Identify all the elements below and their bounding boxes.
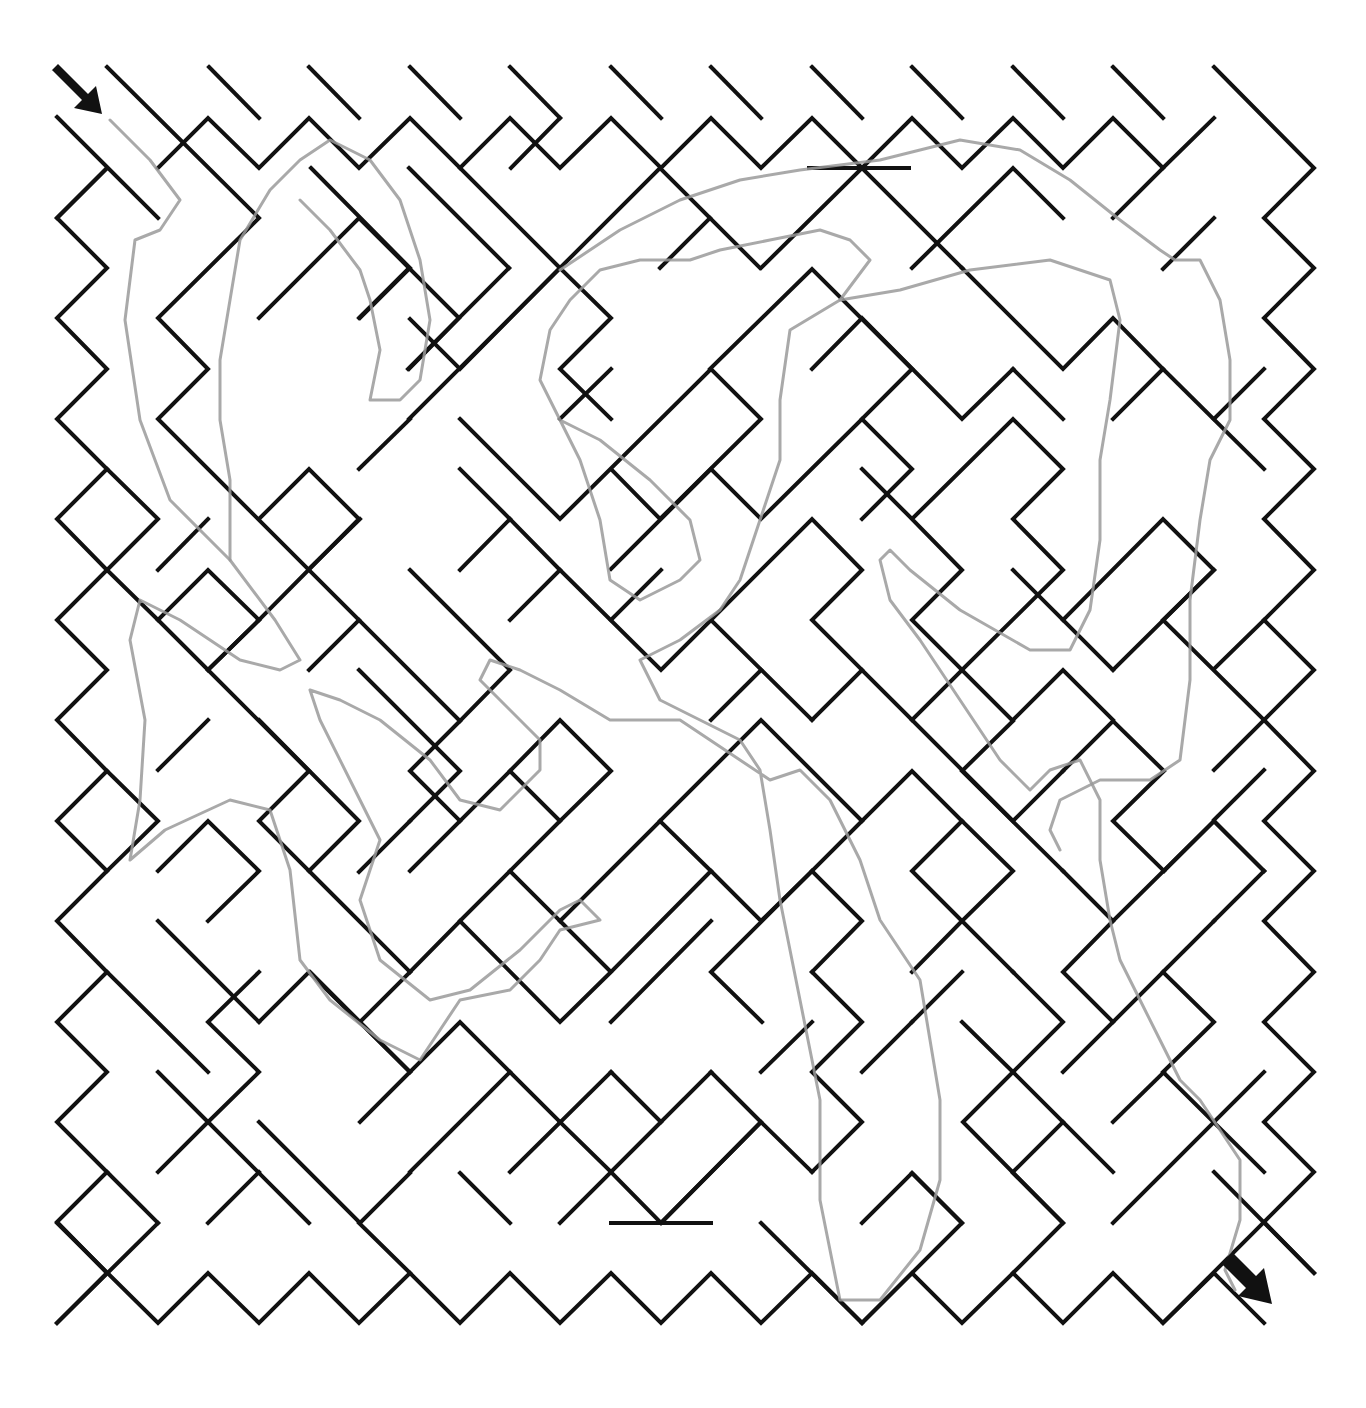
maze-wall <box>1013 1122 1063 1172</box>
maze-wall <box>962 821 1013 972</box>
maze-wall <box>410 1022 510 1072</box>
maze-wall <box>311 168 410 318</box>
maze-wall <box>862 771 962 972</box>
maze-wall <box>259 972 410 1072</box>
maze-wall <box>309 67 359 118</box>
maze-board <box>0 0 1366 1408</box>
maze-wall <box>359 1223 410 1273</box>
maze-wall <box>460 469 510 519</box>
maze-wall <box>1113 168 1163 218</box>
maze-wall <box>711 871 812 1022</box>
maze-wall <box>1013 1173 1063 1273</box>
maze-wall <box>1214 1072 1264 1122</box>
maze-wall <box>460 1173 510 1223</box>
maze-wall <box>611 921 711 1022</box>
maze-wall <box>208 972 309 1223</box>
maze-wall <box>711 670 761 720</box>
maze-wall <box>1214 720 1264 770</box>
maze-wall <box>208 670 309 871</box>
maze-wall <box>1013 67 1063 118</box>
maze-wall <box>661 1072 761 1223</box>
maze-wall <box>158 519 208 570</box>
maze-wall <box>1113 821 1264 921</box>
maze-wall <box>460 871 560 921</box>
solution-line-mid <box>220 140 430 560</box>
maze-wall <box>57 1223 1264 1323</box>
maze-wall <box>209 67 259 118</box>
maze-wall <box>611 570 661 620</box>
maze-wall <box>57 168 107 1323</box>
maze-wall <box>107 1172 158 1223</box>
maze-wall <box>1013 670 1113 720</box>
maze-wall <box>158 118 1214 168</box>
maze-wall <box>309 620 359 670</box>
entrance-arrow-icon <box>47 64 102 114</box>
maze-wall <box>410 168 560 369</box>
maze-wall <box>409 168 509 268</box>
maze-wall <box>208 1172 259 1223</box>
maze-wall <box>962 268 1163 419</box>
maze-wall <box>1214 620 1264 669</box>
maze-wall <box>309 519 360 569</box>
maze-wall <box>359 419 410 469</box>
maze-wall <box>661 1072 711 1122</box>
maze-wall <box>761 1022 812 1072</box>
maze-wall <box>711 871 862 972</box>
maze-wall <box>1013 369 1063 419</box>
maze-wall <box>359 821 410 872</box>
maze-wall <box>410 771 560 871</box>
maze-wall <box>158 1072 208 1172</box>
maze-wall <box>560 1072 661 1172</box>
maze-wall <box>460 519 560 620</box>
maze-wall <box>410 570 510 721</box>
maze-wall <box>560 1122 812 1223</box>
maze-wall <box>812 318 1013 419</box>
maze-wall <box>158 921 259 1022</box>
maze-wall <box>1113 1122 1214 1223</box>
maze-wall <box>912 168 1063 268</box>
maze-wall <box>1063 721 1164 871</box>
maze-wall <box>611 67 661 118</box>
maze-wall <box>912 67 962 118</box>
maze-wall <box>158 821 259 921</box>
maze-wall <box>1214 871 1264 921</box>
maze-wall <box>259 1122 410 1223</box>
maze-wall <box>107 972 208 1072</box>
maze-wall <box>1113 1072 1164 1122</box>
maze-wall <box>1214 67 1314 1273</box>
maze-wall <box>410 67 460 118</box>
maze-wall <box>158 720 208 770</box>
maze-wall <box>410 1072 560 1172</box>
maze-wall <box>862 419 1063 670</box>
maze-wall <box>611 419 912 569</box>
maze-wall <box>812 67 862 118</box>
maze-wall <box>711 67 761 118</box>
maze-wall <box>862 1022 912 1072</box>
maze-wall <box>1164 821 1264 871</box>
maze-wall <box>912 720 1063 821</box>
maze-wall <box>1214 770 1264 820</box>
maze-wall <box>1113 67 1163 118</box>
maze-wall <box>460 369 761 519</box>
maze-wall <box>510 720 611 821</box>
maze-wall <box>962 1022 1063 1223</box>
solution-line-upper <box>540 230 870 600</box>
maze-wall <box>711 519 862 670</box>
maze-wall <box>560 570 812 720</box>
maze-walls <box>57 67 1314 1323</box>
maze-wall <box>1214 369 1264 419</box>
maze-wall <box>259 469 359 620</box>
maze-wall <box>1163 921 1214 972</box>
maze-wall <box>510 67 560 118</box>
maze-wall <box>107 67 460 821</box>
solution-line-top <box>560 140 1230 850</box>
